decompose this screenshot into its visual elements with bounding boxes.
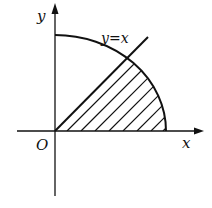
- line-label: y=x: [100, 30, 129, 46]
- y-axis-label: y: [36, 7, 46, 25]
- x-axis-label: x: [182, 134, 191, 152]
- y-axis-arrow-icon: [52, 3, 59, 14]
- line-y-equals-x: [55, 37, 148, 131]
- quarter-circle-arc: [55, 35, 166, 131]
- diagram-canvas: y x O y=x: [0, 0, 212, 208]
- x-axis-arrow-icon: [194, 128, 204, 135]
- origin-label: O: [36, 136, 48, 154]
